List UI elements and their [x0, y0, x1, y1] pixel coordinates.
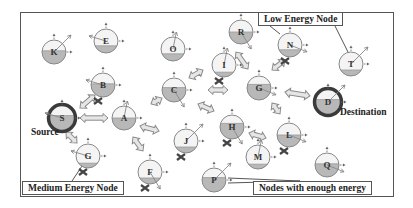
node-q[interactable]: Q: [315, 147, 346, 178]
node-label: F: [147, 167, 153, 177]
destination-label: Destination: [340, 107, 386, 117]
node-label: R: [238, 27, 245, 37]
node-label: C: [171, 85, 178, 95]
node-label: I: [222, 60, 226, 70]
node-label: J: [184, 136, 189, 146]
node-g[interactable]: G: [247, 70, 278, 101]
link-arrow: [196, 100, 216, 115]
node-label: N: [287, 40, 294, 50]
node-label: S: [59, 113, 64, 123]
node-t[interactable]: T: [339, 46, 370, 77]
node-a[interactable]: A: [112, 100, 143, 131]
failed-cross-icon: [94, 98, 102, 104]
node-label: L: [286, 130, 292, 140]
enough-energy-callout: Nodes with enough energy: [253, 181, 372, 195]
failed-cross-icon: [177, 154, 185, 160]
node-m[interactable]: M: [246, 139, 277, 170]
node-e[interactable]: E: [89, 23, 125, 54]
node-o[interactable]: O: [161, 31, 192, 62]
node-label: G: [84, 151, 91, 161]
node-f[interactable]: F: [138, 154, 169, 192]
node-label: H: [228, 122, 235, 132]
failed-cross-icon: [215, 78, 223, 84]
link-arrow: [284, 88, 310, 101]
link-arrow: [77, 92, 98, 112]
link-arrow: [269, 56, 287, 73]
failed-cross-icon: [280, 148, 288, 154]
node-h[interactable]: H: [220, 109, 251, 147]
low-callout-pointer: [270, 26, 280, 34]
node-label: Q: [323, 160, 330, 170]
link-arrow: [80, 114, 108, 123]
node-n[interactable]: N: [278, 27, 309, 65]
node-label: O: [169, 44, 176, 54]
node-c[interactable]: C: [162, 72, 193, 108]
node-label: K: [50, 47, 57, 57]
node-label: P: [211, 175, 217, 185]
link-arrow: [208, 86, 228, 95]
link-arrow: [187, 66, 205, 82]
node-label: B: [100, 80, 106, 90]
node-j[interactable]: J: [174, 123, 205, 161]
network-diagram: KEORNTBICGDSAHLJGMFQP Low Energy Node Me…: [0, 0, 413, 208]
node-label: T: [348, 59, 354, 69]
link-arrow: [129, 134, 146, 153]
node-label: A: [121, 113, 128, 123]
failed-cross-icon: [79, 169, 87, 175]
source-label: Source: [31, 127, 59, 137]
low-callout-pointer: [335, 26, 348, 52]
failed-cross-icon: [223, 140, 231, 146]
medium-energy-callout: Medium Energy Node: [22, 181, 124, 195]
node-l[interactable]: L: [277, 117, 308, 155]
low-energy-callout: Low Energy Node: [258, 12, 343, 26]
link-arrow: [149, 94, 164, 108]
node-label: G: [255, 83, 262, 93]
failed-cross-icon: [141, 185, 149, 191]
network-canvas: KEORNTBICGDSAHLJGMFQP: [0, 0, 413, 208]
node-label: E: [103, 36, 109, 46]
node-label: D: [325, 97, 332, 107]
link-arrow: [268, 100, 283, 116]
node-r[interactable]: R: [229, 14, 260, 50]
node-p[interactable]: P: [202, 162, 233, 193]
node-label: M: [254, 152, 263, 162]
link-arrow: [139, 122, 160, 136]
node-k[interactable]: K: [42, 34, 73, 65]
